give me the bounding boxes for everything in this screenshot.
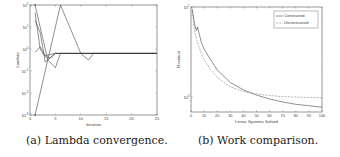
x-axis-label: Linear Systems Solved	[235, 119, 278, 124]
x-tick-label: 0	[29, 116, 32, 121]
tick-label: 101	[183, 4, 189, 10]
x-tick-label: 20	[129, 116, 134, 121]
x-tick-label: 60	[267, 114, 271, 118]
panel-lambda-convergence: 051015202510-310-210-1100101102Iteration…	[0, 0, 170, 130]
x-tick-label: 70	[281, 114, 285, 118]
x-tick-label: 25	[155, 116, 160, 121]
caption-b: (b) Work comparison.	[198, 134, 318, 147]
x-tick-label: 20	[215, 114, 219, 118]
x-axis-label: Iteration	[86, 122, 102, 127]
x-tick-label: 30	[228, 114, 232, 118]
tick-label: 10-2	[21, 90, 28, 96]
tick-label: 100	[183, 94, 189, 100]
x-tick-label: 50	[254, 114, 258, 118]
x-tick-label: 10	[79, 116, 84, 121]
work-comparison-chart: 0102030405060708090100100101Linear Syste…	[170, 0, 340, 130]
legend-unconstrained: Unconstrained	[284, 21, 308, 25]
x-tick-label: 5	[54, 116, 57, 121]
lambda-convergence-chart: 051015202510-310-210-1100101102Iteration…	[0, 0, 170, 130]
caption-a: (a) Lambda convergence.	[26, 134, 168, 147]
x-tick-label: 100	[319, 114, 325, 118]
legend: ConstrainedUnconstrained	[274, 11, 318, 28]
tick-label: 10-3	[21, 112, 28, 118]
panel-work-comparison: 0102030405060708090100100101Linear Syste…	[170, 0, 340, 130]
tick-label: 102	[22, 2, 28, 8]
x-tick-label: 10	[202, 114, 206, 118]
x-tick-label: 40	[241, 114, 245, 118]
tick-label: 100	[22, 46, 28, 52]
tick-label: 101	[22, 24, 28, 30]
x-tick-label: 90	[307, 114, 311, 118]
y-axis-label: Lambda	[15, 52, 20, 68]
x-tick-label: 0	[190, 114, 192, 118]
x-tick-label: 15	[104, 116, 109, 121]
plot-area	[30, 5, 157, 115]
y-axis-label: Residual	[176, 51, 181, 67]
legend-constrained: Constrained	[284, 14, 304, 18]
x-tick-label: 80	[294, 114, 298, 118]
tick-label: 10-1	[21, 68, 28, 74]
